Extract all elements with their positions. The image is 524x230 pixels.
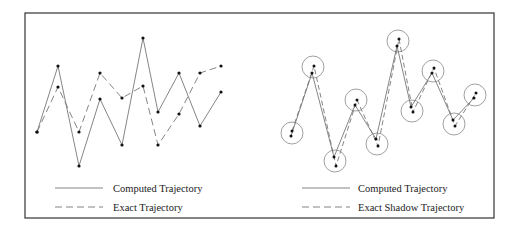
data-point <box>333 156 336 159</box>
data-point <box>156 143 159 146</box>
data-point <box>177 71 180 74</box>
data-point <box>198 71 201 74</box>
trajectory-shadowing-figure: Computed Trajectory Exact Trajectory Com… <box>0 0 524 230</box>
data-point <box>98 71 101 74</box>
data-point <box>454 125 457 128</box>
data-point <box>354 104 357 107</box>
data-point <box>120 143 123 146</box>
data-point <box>219 64 222 67</box>
exact-trajectory-line <box>37 66 221 145</box>
shadow-circle <box>422 60 444 82</box>
data-point <box>396 45 399 48</box>
legend-label-computed: Computed Trajectory <box>113 183 203 194</box>
data-point <box>35 130 38 133</box>
data-point <box>377 145 380 148</box>
legend-label-computed: Computed Trajectory <box>358 183 448 194</box>
data-point <box>412 111 415 114</box>
data-point <box>452 119 455 122</box>
data-point <box>120 96 123 99</box>
data-point <box>433 67 436 70</box>
data-point <box>56 85 59 88</box>
shadow-circle <box>464 84 486 106</box>
data-point <box>98 97 101 100</box>
computed-trajectory-line <box>291 46 474 157</box>
trajectory-points <box>35 36 222 167</box>
shadow-neighborhood-circles <box>281 30 486 172</box>
shadow-circle <box>324 150 346 172</box>
left-legend: Computed Trajectory Exact Trajectory <box>55 183 203 213</box>
data-point <box>356 99 359 102</box>
right-legend: Computed Trajectory Exact Shadow Traject… <box>302 183 465 213</box>
right-panel: Computed Trajectory Exact Shadow Traject… <box>281 30 486 213</box>
data-point <box>198 124 201 127</box>
data-point <box>398 38 401 41</box>
data-point <box>313 65 316 68</box>
data-point <box>311 72 314 75</box>
data-point <box>141 84 144 87</box>
legend-label-exact-shadow: Exact Shadow Trajectory <box>358 202 465 213</box>
left-panel: Computed Trajectory Exact Trajectory <box>35 36 222 212</box>
data-point <box>431 72 434 75</box>
data-point <box>77 130 80 133</box>
data-point <box>375 138 378 141</box>
legend-label-exact: Exact Trajectory <box>113 202 183 213</box>
data-point <box>56 64 59 67</box>
data-point <box>156 110 159 113</box>
data-point <box>475 92 478 95</box>
data-point <box>177 112 180 115</box>
data-point <box>335 165 338 168</box>
data-point <box>141 36 144 39</box>
data-point <box>291 130 294 133</box>
data-point <box>410 106 413 109</box>
data-point <box>290 135 293 138</box>
data-point <box>473 97 476 100</box>
data-point <box>219 90 222 93</box>
data-point <box>77 164 80 167</box>
